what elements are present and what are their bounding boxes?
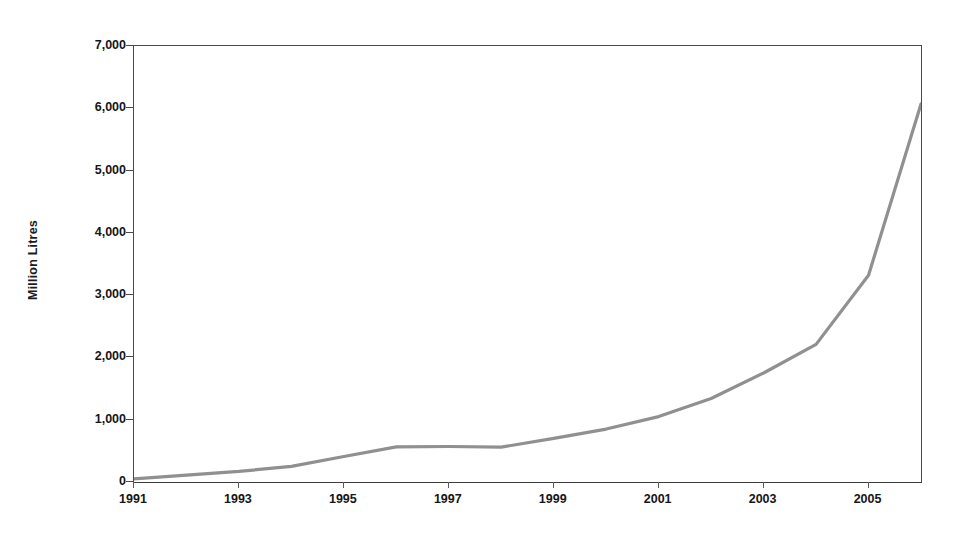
y-axis-tick-mark [126, 419, 133, 420]
x-axis-tick-mark [343, 482, 344, 488]
y-axis-title-label: Million Litres [26, 220, 40, 300]
plot-svg [134, 46, 921, 482]
y-axis-tick-label: 4,000 [56, 225, 126, 239]
x-axis-tick-mark [763, 482, 764, 488]
y-axis-tick-label: 2,000 [56, 349, 126, 363]
x-axis-tick-mark [553, 482, 554, 488]
line-chart-figure: Million Litres 01,0002,0003,0004,0005,00… [0, 0, 963, 544]
y-axis-tick-mark [126, 481, 133, 482]
x-axis-tick-label: 2001 [618, 492, 698, 506]
y-axis-tick-mark [126, 294, 133, 295]
x-axis-tick-label: 1995 [303, 492, 383, 506]
x-axis-tick-label: 1997 [408, 492, 488, 506]
x-axis-tick-mark [658, 482, 659, 488]
y-axis-tick-label: 0 [56, 474, 126, 488]
x-axis-tick-label: 2003 [723, 492, 803, 506]
y-axis-tick-mark [126, 45, 133, 46]
y-axis-tick-labels: 01,0002,0003,0004,0005,0006,0007,000 [50, 0, 126, 544]
y-axis-title: Million Litres [18, 180, 48, 340]
y-axis-tick-label: 3,000 [56, 287, 126, 301]
data-series-line [134, 104, 921, 479]
y-axis-tick-label: 7,000 [56, 38, 126, 52]
x-axis-tick-mark [868, 482, 869, 488]
y-axis-tick-mark [126, 232, 133, 233]
x-axis-tick-mark [133, 482, 134, 488]
y-axis-tick-label: 5,000 [56, 163, 126, 177]
y-axis-tick-mark [126, 107, 133, 108]
y-axis-tick-mark [126, 356, 133, 357]
y-axis-tick-mark [126, 170, 133, 171]
x-axis-tick-mark [448, 482, 449, 488]
x-axis-tick-mark [238, 482, 239, 488]
y-axis-tick-label: 1,000 [56, 412, 126, 426]
x-axis-tick-label: 1999 [513, 492, 593, 506]
y-axis-tick-label: 6,000 [56, 100, 126, 114]
x-axis-tick-label: 1991 [93, 492, 173, 506]
x-axis-tick-label: 2005 [828, 492, 908, 506]
plot-area [133, 45, 922, 483]
x-axis-tick-label: 1993 [198, 492, 278, 506]
